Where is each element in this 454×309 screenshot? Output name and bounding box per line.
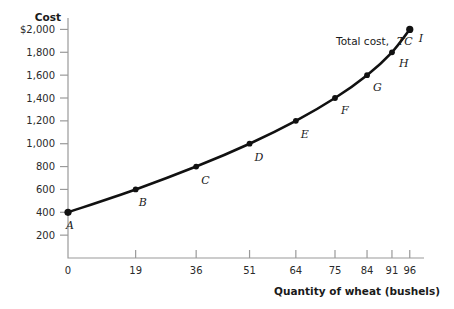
data-point — [364, 72, 370, 78]
y-tick-label: 1,200 — [26, 115, 55, 126]
data-point-label: B — [138, 196, 147, 209]
data-point-label: C — [201, 174, 210, 187]
data-point — [133, 187, 139, 193]
y-tick-label: $2,000 — [20, 24, 55, 35]
data-point — [247, 141, 253, 147]
data-point — [293, 118, 299, 124]
data-point — [389, 49, 395, 55]
total-cost-curve — [68, 29, 410, 212]
data-point-label: I — [418, 32, 424, 45]
x-axis-ticks: 01936516475849196 — [65, 250, 416, 276]
data-point-label: A — [65, 219, 74, 232]
data-point-label: H — [398, 57, 409, 70]
total-cost-chart: Cost Quantity of wheat (bushels) 2004006… — [0, 0, 454, 309]
y-tick-label: 1,000 — [26, 138, 55, 149]
data-point-label: F — [340, 104, 349, 117]
x-tick-label: 19 — [129, 265, 142, 276]
y-tick-label: 800 — [36, 161, 55, 172]
chart-canvas: Cost Quantity of wheat (bushels) 2004006… — [0, 0, 454, 309]
x-tick-label: 36 — [190, 265, 203, 276]
y-tick-label: 400 — [36, 207, 55, 218]
data-point — [64, 209, 71, 216]
series-annotation: Total cost, TC — [335, 35, 413, 48]
x-tick-label: 96 — [403, 265, 416, 276]
y-tick-label: 200 — [36, 230, 55, 241]
series-label-symbol: TC — [397, 35, 413, 48]
x-axis-title: Quantity of wheat (bushels) — [274, 285, 440, 297]
data-point — [193, 164, 199, 170]
data-point-label: E — [300, 128, 309, 141]
x-tick-label: 64 — [289, 265, 302, 276]
y-tick-label: 1,400 — [26, 93, 55, 104]
y-tick-label: 1,600 — [26, 70, 55, 81]
data-point — [406, 26, 413, 33]
y-axis-title: Cost — [35, 11, 61, 23]
x-tick-label: 0 — [65, 265, 71, 276]
x-tick-label: 51 — [243, 265, 256, 276]
data-points: ABCDEFGHI — [64, 26, 423, 232]
y-axis-ticks: 2004006008001,0001,2001,4001,6001,800$2,… — [20, 24, 68, 241]
x-tick-label: 91 — [386, 265, 399, 276]
y-tick-label: 600 — [36, 184, 55, 195]
data-point-label: G — [373, 81, 382, 94]
series-label-text: Total cost, — [335, 35, 389, 47]
data-point-label: D — [254, 151, 264, 164]
data-point — [332, 95, 338, 101]
x-tick-label: 75 — [329, 265, 342, 276]
y-tick-label: 1,800 — [26, 47, 55, 58]
x-tick-label: 84 — [361, 265, 374, 276]
axis-lines — [68, 18, 424, 258]
